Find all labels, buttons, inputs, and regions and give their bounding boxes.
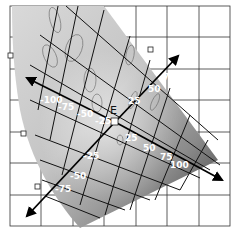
marker-square xyxy=(148,47,153,52)
tick-label: 75 xyxy=(163,72,176,82)
tick-label: 25 xyxy=(128,96,141,106)
tick-label: -75 xyxy=(55,184,71,194)
tick-label: -75 xyxy=(58,102,74,112)
color-space-diagram: E -100 -75 -50 -25 25 50 75 100 -25 -50 … xyxy=(0,0,235,231)
tick-label: 25 xyxy=(125,133,138,143)
marker-square xyxy=(8,53,13,58)
tick-label: 100 xyxy=(170,160,189,170)
tick-label: -25 xyxy=(83,151,99,161)
tick-label: -50 xyxy=(77,109,93,119)
tick-label: 50 xyxy=(143,143,156,153)
tick-label: 50 xyxy=(148,84,161,94)
marker-square xyxy=(35,184,40,189)
tick-label: -50 xyxy=(70,171,86,181)
marker-square xyxy=(21,131,26,136)
origin-marker xyxy=(111,118,118,125)
tick-label: -25 xyxy=(95,116,111,126)
